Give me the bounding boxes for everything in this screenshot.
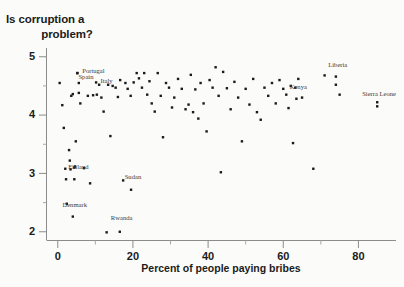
data-point xyxy=(114,86,116,88)
data-point xyxy=(208,79,210,81)
data-point xyxy=(244,88,246,90)
data-point xyxy=(263,86,265,88)
data-point xyxy=(211,86,213,88)
data-point xyxy=(141,86,143,88)
x-tick-group xyxy=(58,241,359,249)
y-tick-group xyxy=(39,57,47,232)
x-tick-label: 60 xyxy=(277,250,289,262)
data-point xyxy=(68,149,70,151)
data-point xyxy=(248,103,250,105)
data-point xyxy=(72,93,74,95)
data-point xyxy=(105,231,107,233)
data-point xyxy=(260,119,262,121)
data-point xyxy=(323,74,325,76)
data-point xyxy=(292,142,294,144)
data-point xyxy=(173,96,175,98)
data-point xyxy=(89,182,91,184)
data-point xyxy=(171,106,173,108)
data-point xyxy=(301,96,303,98)
x-axis-label-group: Percent of people paying bribes xyxy=(141,262,300,274)
data-point xyxy=(278,79,280,81)
data-point xyxy=(338,93,340,95)
annotation-label: Kenya xyxy=(290,83,307,90)
x-axis: 020406080 xyxy=(47,241,397,263)
y-tick-label: 3 xyxy=(29,167,35,179)
data-point xyxy=(160,95,162,97)
data-point xyxy=(75,140,77,142)
x-tick-label: 40 xyxy=(202,250,214,262)
data-point xyxy=(135,72,137,74)
data-point xyxy=(162,136,164,138)
y-tick-label-group: 5432 xyxy=(29,50,36,237)
x-axis-label: Percent of people paying bribes xyxy=(141,262,300,274)
annotation-label: Sierra Leone xyxy=(362,90,396,97)
x-tick-label: 0 xyxy=(55,250,61,262)
data-point xyxy=(252,78,254,80)
data-point xyxy=(312,168,314,170)
annotation-point xyxy=(95,81,97,83)
data-point xyxy=(297,78,299,80)
annotation-label: Finland xyxy=(68,163,89,170)
data-point xyxy=(61,104,63,106)
data-point xyxy=(335,84,337,86)
data-point xyxy=(102,110,104,112)
annotation-point xyxy=(295,98,297,100)
data-point xyxy=(124,82,126,84)
data-point xyxy=(222,71,224,73)
data-point xyxy=(92,94,94,96)
data-point xyxy=(157,72,159,74)
data-point xyxy=(63,127,65,129)
data-point xyxy=(233,81,235,83)
data-point xyxy=(187,103,189,105)
annotation-label: Liberia xyxy=(328,61,347,68)
data-point xyxy=(138,77,140,79)
data-point xyxy=(220,171,222,173)
data-point xyxy=(229,108,231,110)
data-point xyxy=(64,168,66,170)
data-point xyxy=(275,102,277,104)
data-point xyxy=(151,102,153,104)
data-point xyxy=(181,88,183,90)
data-point xyxy=(177,78,179,80)
data-point xyxy=(79,102,81,104)
data-point xyxy=(194,88,196,90)
data-point xyxy=(117,96,119,98)
data-point xyxy=(100,96,102,98)
data-point xyxy=(148,80,150,82)
annotation-point xyxy=(72,215,74,217)
annotation-label: Rwanda xyxy=(111,214,133,221)
x-tick-label: 80 xyxy=(352,250,364,262)
data-point xyxy=(165,82,167,84)
x-tick-label: 20 xyxy=(127,250,139,262)
data-point xyxy=(217,95,219,97)
data-point xyxy=(69,159,71,161)
data-point xyxy=(111,85,113,87)
data-point xyxy=(154,110,156,112)
data-point xyxy=(58,82,60,84)
annotation-label: Denmark xyxy=(62,201,87,208)
data-point xyxy=(96,93,98,95)
data-point xyxy=(287,107,289,109)
data-point xyxy=(168,86,170,88)
y-tick-label: 2 xyxy=(29,225,35,237)
data-point-group xyxy=(58,66,378,233)
chart-container: Is corruption a problem? 5432 020406080 … xyxy=(0,0,404,287)
annotation-point xyxy=(376,105,378,107)
data-point xyxy=(237,96,239,98)
data-point xyxy=(226,87,228,89)
data-point xyxy=(282,88,284,90)
scatter-plot-svg: 5432 020406080 PortugalSpainItalyFinland… xyxy=(0,0,404,287)
data-point xyxy=(256,111,258,113)
data-point xyxy=(78,92,80,94)
x-tick-label-group: 020406080 xyxy=(55,250,365,262)
data-point xyxy=(184,108,186,110)
y-tick-label: 4 xyxy=(29,108,36,120)
data-point xyxy=(190,74,192,76)
data-point xyxy=(214,66,216,68)
data-point xyxy=(205,130,207,132)
data-point xyxy=(65,178,67,180)
data-point xyxy=(126,88,128,90)
data-point xyxy=(267,95,269,97)
data-point xyxy=(87,95,89,97)
data-point xyxy=(109,135,111,137)
